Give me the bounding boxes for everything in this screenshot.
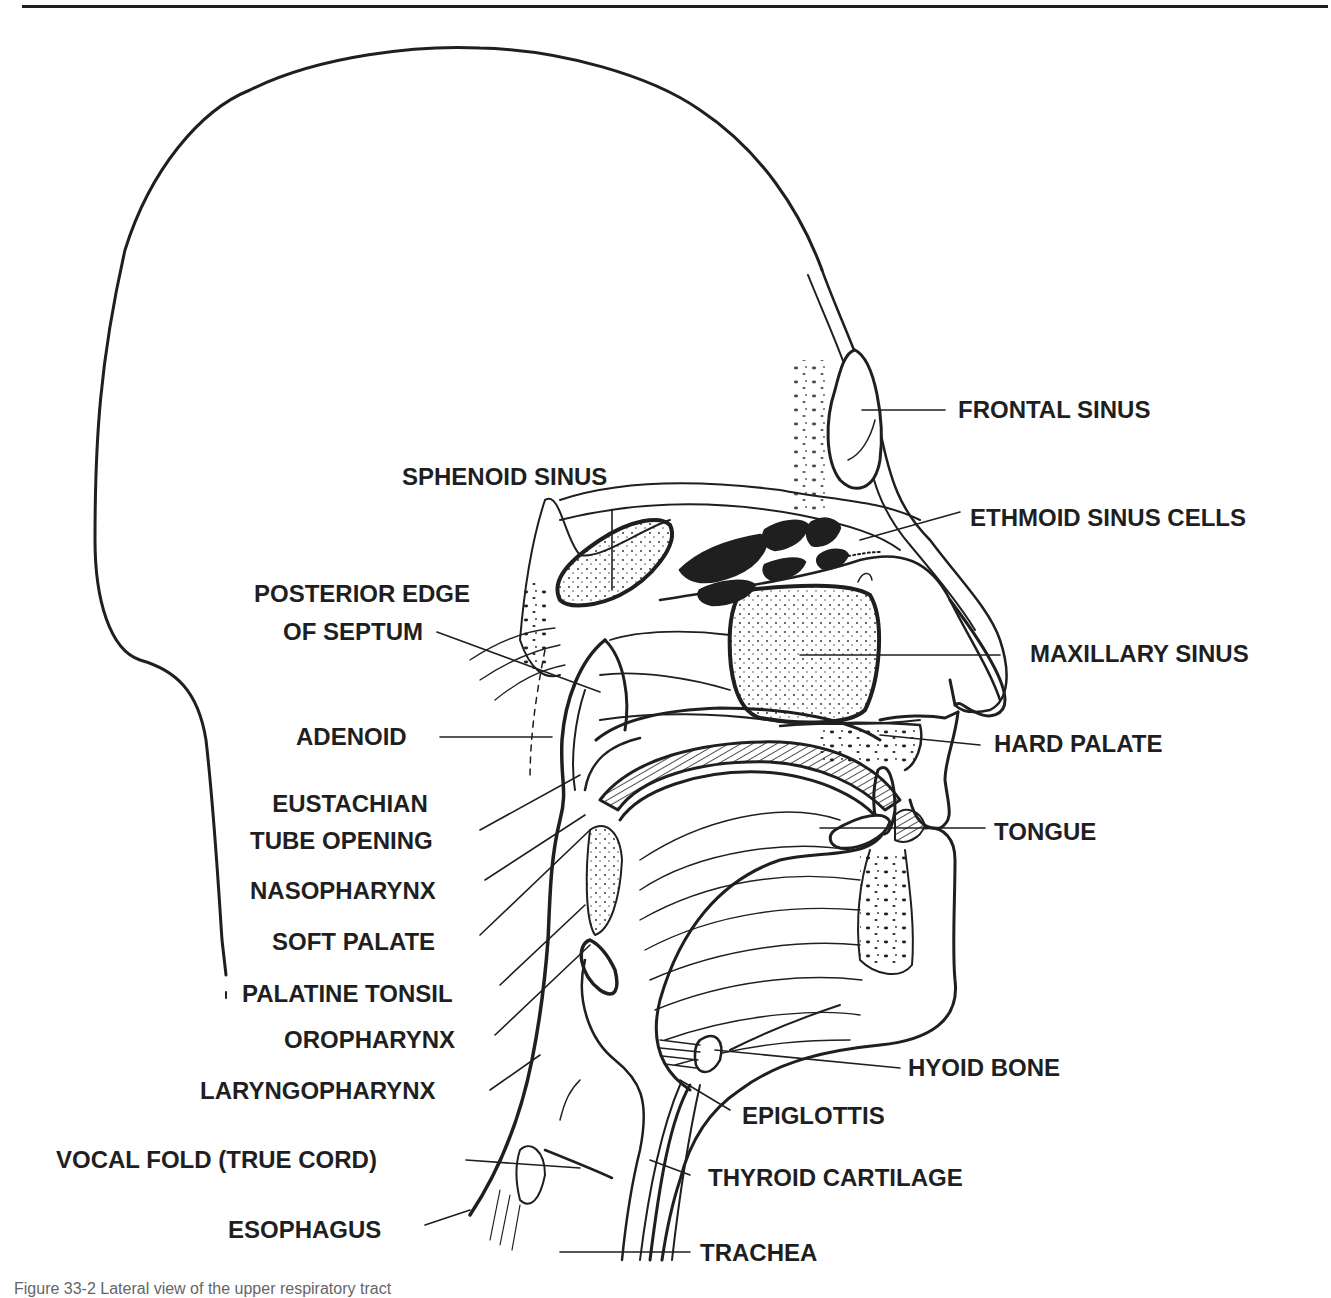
label-maxillary-sinus: MAXILLARY SINUS <box>1030 638 1249 670</box>
label-hard-palate: HARD PALATE <box>994 728 1162 760</box>
label-soft-palate: SOFT PALATE <box>272 926 435 958</box>
maxillary-sinus-shape <box>730 586 879 723</box>
figure-caption: Figure 33-2 Lateral view of the upper re… <box>14 1280 391 1298</box>
label-epiglottis: EPIGLOTTIS <box>742 1100 885 1132</box>
frontal-sinus-shape <box>828 350 881 488</box>
tongue-body <box>620 772 885 1090</box>
label-thyroid-cartilage: THYROID CARTILAGE <box>708 1162 963 1194</box>
label-sphenoid-sinus: SPHENOID SINUS <box>402 461 607 493</box>
label-laryngopharynx: LARYNGOPHARYNX <box>200 1075 436 1107</box>
label-palatine-tonsil: PALATINE TONSIL <box>242 978 453 1010</box>
label-adenoid: ADENOID <box>296 721 407 753</box>
label-oropharynx: OROPHARYNX <box>284 1024 455 1056</box>
label-frontal-sinus: FRONTAL SINUS <box>958 394 1150 426</box>
label-nasopharynx: NASOPHARYNX <box>250 875 436 907</box>
hyoid-shape <box>695 1036 721 1072</box>
label-trachea: TRACHEA <box>700 1237 817 1269</box>
label-vocal-fold: VOCAL FOLD (TRUE CORD) <box>56 1144 377 1176</box>
label-esophagus: ESOPHAGUS <box>228 1214 381 1246</box>
label-eustachian-line1: EUSTACHIAN <box>262 788 438 820</box>
sphenoid-sinus-shape <box>557 520 672 605</box>
label-tongue: TONGUE <box>994 816 1096 848</box>
label-posterior-edge-of-septum-line1: POSTERIOR EDGE <box>208 578 470 610</box>
label-hyoid-bone: HYOID BONE <box>908 1052 1060 1084</box>
head-outline <box>95 47 822 975</box>
label-eustachian-line2: TUBE OPENING <box>250 825 433 857</box>
label-ethmoid-sinus-cells: ETHMOID SINUS CELLS <box>970 502 1246 534</box>
pharynx-posterior-wall <box>470 640 605 1215</box>
label-posterior-edge-of-septum-line2: OF SEPTUM <box>208 616 423 648</box>
